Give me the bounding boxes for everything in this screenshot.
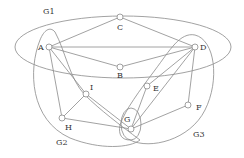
node-label-d: D xyxy=(200,43,206,52)
edge-a-h xyxy=(49,47,62,118)
node-label-h: H xyxy=(65,123,72,132)
node-g xyxy=(128,126,134,132)
edge-a-b xyxy=(49,47,120,67)
node-label-f: F xyxy=(196,103,202,112)
node-label-e: E xyxy=(153,84,159,93)
node-c xyxy=(117,14,123,20)
group-label-g1: G1 xyxy=(43,7,54,16)
node-i xyxy=(83,91,89,97)
edge-b-d xyxy=(120,47,195,67)
edge-f-g xyxy=(131,105,188,129)
node-h xyxy=(59,115,65,121)
group-label-g2: G2 xyxy=(56,138,67,147)
node-label-c: C xyxy=(117,23,123,32)
node-label-b: B xyxy=(117,71,123,80)
edge-d-f xyxy=(188,47,195,105)
node-e xyxy=(144,83,150,89)
graph-diagram: ABCDEFGHIG1G2G3 xyxy=(0,0,244,158)
node-f xyxy=(185,102,191,108)
edge-a-i xyxy=(49,47,86,94)
node-d xyxy=(192,44,198,50)
edge-h-i xyxy=(62,94,86,118)
node-a xyxy=(46,44,52,50)
node-b xyxy=(117,64,123,70)
group-label-g3: G3 xyxy=(193,130,204,139)
node-label-g: G xyxy=(124,115,130,124)
edge-d-e xyxy=(147,47,195,86)
node-label-i: I xyxy=(90,83,93,92)
node-label-a: A xyxy=(37,43,44,52)
